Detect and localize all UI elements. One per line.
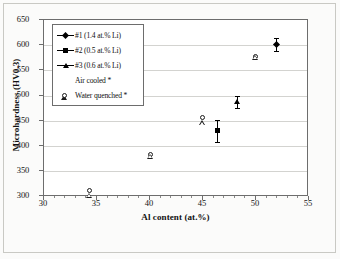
filled-triangle-marker [234,99,240,104]
x-tick-mark [202,196,203,200]
open-circle-icon [57,89,75,103]
gridline [44,171,307,172]
x-minor-tick [266,196,267,198]
filled-diamond-icon [57,29,75,43]
x-minor-tick [107,196,108,198]
x-minor-tick [54,196,55,198]
error-bar-cap [274,38,279,39]
x-axis-title: Al content (at.%) [43,212,308,222]
error-bar-cap [215,142,220,143]
legend-label: Air cooled * [75,77,111,85]
error-bar-cap [215,120,220,121]
x-tick-label: 40 [134,199,164,208]
x-minor-tick [234,196,235,198]
filled-diamond-marker [273,41,280,48]
error-bar-cap [274,51,279,52]
chart-legend: #1 (1.4 at.% Li) #2 (0.5 at.% Li) #3 (0.… [52,24,144,106]
legend-item-air-cooled: Air cooled * [57,73,143,88]
x-minor-tick [297,196,298,198]
x-tick-label: 55 [293,199,323,208]
x-minor-tick [213,196,214,198]
filled-triangle-icon [57,59,75,73]
legend-label: #3 (0.6 at.% Li) [75,62,121,70]
x-minor-tick [117,196,118,198]
legend-label: Water quenched * [75,92,127,100]
error-bar-cap [235,108,240,109]
y-axis-title: Microhardness (HV0.3) [11,15,21,195]
legend-item-series-3: #3 (0.6 at.% Li) [57,58,143,73]
x-minor-tick [64,196,65,198]
x-tick-label: 50 [240,199,270,208]
chart-figure: 650 600 550 500 450 400 350 300 30 35 40… [0,0,340,259]
open-triangle-icon [57,74,75,88]
filled-square-marker [215,128,220,133]
x-minor-tick [223,196,224,198]
x-minor-tick [181,196,182,198]
gridline [44,146,307,147]
x-tick-label: 30 [28,199,58,208]
filled-square-icon [57,44,75,58]
x-tick-label: 45 [187,199,217,208]
x-tick-mark [255,196,256,200]
legend-label: #2 (0.5 at.% Li) [75,47,121,55]
x-minor-tick [160,196,161,198]
open-triangle-marker [199,120,205,125]
x-tick-mark [43,196,44,200]
open-triangle-marker [86,193,92,198]
legend-item-water-quenched: Water quenched * [57,88,143,103]
legend-label: #1 (1.4 at.% Li) [75,32,121,40]
x-minor-tick [75,196,76,198]
legend-item-series-2: #2 (0.5 at.% Li) [57,43,143,58]
x-minor-tick [170,196,171,198]
gridline [44,121,307,122]
x-minor-tick [138,196,139,198]
x-minor-tick [191,196,192,198]
x-minor-tick [128,196,129,198]
x-tick-mark [308,196,309,200]
x-tick-label: 35 [81,199,111,208]
open-triangle-marker [252,55,258,60]
x-tick-mark [96,196,97,200]
x-minor-tick [276,196,277,198]
error-bar-cap [235,96,240,97]
legend-item-series-1: #1 (1.4 at.% Li) [57,28,143,43]
x-minor-tick [244,196,245,198]
open-triangle-marker [147,154,153,159]
x-tick-mark [149,196,150,200]
x-minor-tick [287,196,288,198]
